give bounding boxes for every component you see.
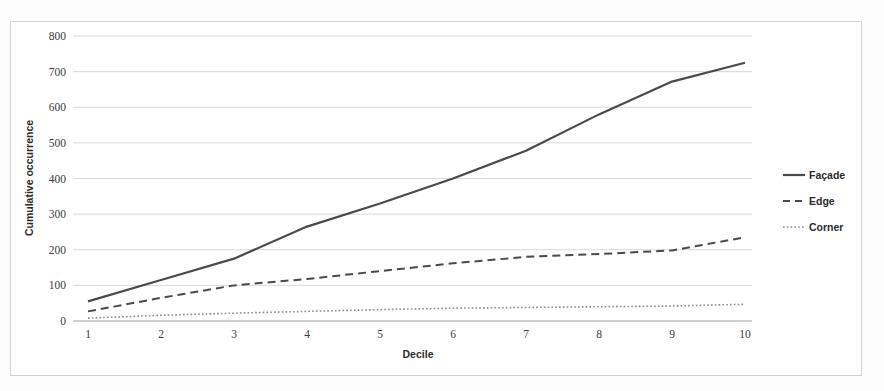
y-tick-label: 700 xyxy=(49,66,67,78)
legend-label: Edge xyxy=(809,195,835,207)
y-tick-label: 600 xyxy=(49,101,67,113)
x-axis-tick-labels: 12345678910 xyxy=(85,328,751,340)
y-tick-label: 300 xyxy=(49,208,67,220)
x-axis-title: Decile xyxy=(403,348,434,360)
chart-page: 0100200300400500600700800 12345678910 De… xyxy=(0,0,884,391)
x-tick-label: 5 xyxy=(377,328,383,340)
y-tick-label: 0 xyxy=(60,315,66,327)
series-line-edge xyxy=(88,237,745,311)
y-tick-label: 400 xyxy=(49,173,67,185)
chart-legend: FaçadeEdgeCorner xyxy=(783,169,845,233)
x-tick-label: 2 xyxy=(158,328,164,340)
x-tick-label: 10 xyxy=(739,328,751,340)
x-tick-label: 4 xyxy=(304,328,310,340)
y-tick-label: 800 xyxy=(49,30,67,42)
x-tick-label: 6 xyxy=(450,328,456,340)
y-axis-tick-labels: 0100200300400500600700800 xyxy=(49,30,67,327)
y-tick-label: 500 xyxy=(49,137,67,149)
x-tick-label: 8 xyxy=(596,328,602,340)
y-tick-label: 100 xyxy=(49,279,67,291)
x-tick-label: 7 xyxy=(523,328,529,340)
series-line-faade xyxy=(88,63,745,302)
y-tick-label: 200 xyxy=(49,244,67,256)
series-line-corner xyxy=(88,304,745,318)
legend-label: Façade xyxy=(809,169,845,181)
y-axis-title: Cumulative occurrence xyxy=(23,120,35,236)
series-group xyxy=(88,63,745,318)
x-tick-label: 3 xyxy=(231,328,237,340)
x-tick-label: 1 xyxy=(85,328,91,340)
x-tick-label: 9 xyxy=(669,328,675,340)
legend-label: Corner xyxy=(809,221,843,233)
line-chart: 0100200300400500600700800 12345678910 De… xyxy=(0,0,884,391)
gridlines xyxy=(73,36,752,321)
